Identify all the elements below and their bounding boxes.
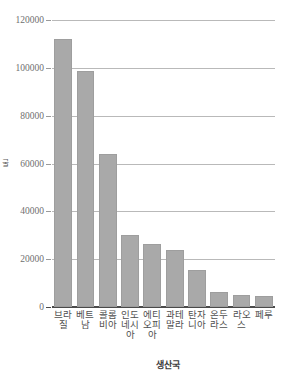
x-tick-label: 브라질 [52, 310, 74, 330]
y-tick-label: 20000 [20, 254, 44, 264]
y-tick-label: 80000 [20, 111, 44, 121]
x-tick-label: 콜롬비아 [97, 310, 119, 330]
y-tick-label: 0 [39, 302, 44, 312]
y-tick-mark [46, 164, 51, 165]
x-tick-label: 과테말라 [164, 310, 186, 330]
y-tick-mark [46, 307, 51, 308]
x-tick-label: 라오스 [230, 310, 252, 330]
y-axis-title: 톤 [0, 150, 14, 176]
x-tick-label: 인도네시아 [119, 310, 141, 341]
y-tick-label: 40000 [20, 206, 44, 216]
x-tick-label: 온두라스 [208, 310, 230, 330]
bar [233, 295, 251, 307]
bar [210, 292, 228, 307]
x-tick-label: 탄자니아 [186, 310, 208, 330]
bar [143, 244, 161, 307]
x-tick-labels: 브라질베트남콜롬비아인도네시아에티오피아과테말라탄자니아온두라스라오스페루 [52, 310, 275, 362]
y-tick-label: 60000 [20, 159, 44, 169]
bar [188, 270, 206, 307]
x-tick-label: 페루 [253, 310, 275, 320]
bar [77, 71, 95, 307]
bar [255, 296, 273, 307]
y-tick-mark [46, 259, 51, 260]
y-tick-label: 100000 [16, 63, 45, 73]
y-tick-mark [46, 68, 51, 69]
x-tick-label: 에티오피아 [141, 310, 163, 341]
x-axis-title: 생산국 [0, 358, 286, 371]
y-tick-label: 120000 [16, 15, 45, 25]
bar [121, 235, 139, 307]
plot-area: 020000400006000080000100000120000 [52, 20, 275, 307]
x-tick-label: 베트남 [74, 310, 96, 330]
bar [166, 250, 184, 307]
y-tick-mark [46, 20, 51, 21]
y-tick-mark [46, 116, 51, 117]
y-tick-mark [46, 211, 51, 212]
bars-layer [52, 20, 275, 307]
bar-chart: 톤 020000400006000080000100000120000 브라질베… [0, 0, 286, 385]
bar [99, 154, 117, 307]
bar [54, 39, 72, 307]
